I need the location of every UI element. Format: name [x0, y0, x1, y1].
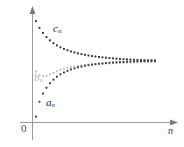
data-point — [105, 62, 107, 64]
data-point — [123, 58, 125, 60]
data-point — [77, 52, 79, 54]
data-point — [53, 79, 55, 81]
data-point — [67, 70, 69, 72]
data-point — [91, 55, 93, 57]
data-point — [63, 72, 65, 74]
data-point — [123, 61, 125, 63]
data-point — [112, 57, 114, 59]
data-point — [74, 67, 76, 69]
data-point — [137, 60, 139, 62]
data-point — [95, 63, 97, 65]
data-point — [133, 60, 135, 62]
sequence-convergence-figure: cn bn an 0 n — [0, 0, 184, 147]
data-point — [102, 62, 104, 64]
data-point — [49, 74, 51, 76]
data-point — [109, 62, 111, 64]
data-point — [112, 62, 114, 64]
data-point — [74, 66, 76, 68]
y-axis-arrow-icon — [30, 6, 36, 14]
data-point — [140, 60, 142, 62]
data-point — [105, 57, 107, 59]
data-point — [116, 61, 118, 63]
data-point — [35, 116, 37, 118]
data-point — [74, 52, 76, 54]
data-point — [95, 56, 97, 58]
data-point — [98, 63, 100, 65]
data-point — [154, 60, 156, 62]
data-point — [109, 57, 111, 59]
data-point — [98, 56, 100, 58]
series-label-c: cn — [53, 23, 61, 35]
data-point — [42, 32, 44, 34]
data-point — [119, 61, 121, 63]
data-point — [151, 60, 153, 62]
data-point — [102, 56, 104, 58]
data-point — [116, 58, 118, 60]
data-point — [67, 67, 69, 69]
x-axis-label: n — [168, 126, 173, 136]
data-point — [88, 64, 90, 66]
data-point — [126, 58, 128, 60]
data-point — [60, 69, 62, 71]
origin-label: 0 — [21, 123, 27, 134]
series-label-a: an — [46, 97, 55, 109]
data-point — [53, 42, 55, 44]
data-point — [53, 72, 55, 74]
data-point — [88, 55, 90, 57]
data-point — [60, 73, 62, 75]
data-point — [84, 65, 86, 67]
data-point — [46, 87, 48, 89]
data-point — [49, 82, 51, 84]
data-point — [130, 61, 132, 63]
data-point — [63, 48, 65, 50]
data-point — [42, 93, 44, 95]
data-point — [147, 60, 149, 62]
plot-canvas — [0, 0, 184, 147]
data-point — [35, 20, 37, 22]
data-point — [91, 64, 93, 66]
data-point — [63, 68, 65, 70]
data-point — [56, 44, 58, 46]
data-point — [39, 27, 41, 29]
data-point — [60, 46, 62, 48]
data-point — [49, 39, 51, 41]
data-point — [84, 54, 86, 56]
data-point — [70, 66, 72, 68]
data-point — [81, 66, 83, 68]
data-point — [70, 69, 72, 71]
data-point — [56, 76, 58, 78]
data-point — [56, 70, 58, 72]
data-point — [39, 101, 41, 103]
data-point — [133, 59, 135, 61]
data-point — [46, 75, 48, 77]
data-point — [130, 59, 132, 61]
series-label-b: bn — [34, 72, 43, 84]
data-point — [144, 60, 146, 62]
data-point — [126, 61, 128, 63]
data-point — [77, 66, 79, 68]
x-axis — [20, 120, 178, 126]
data-point — [46, 36, 48, 38]
data-point — [81, 53, 83, 55]
data-point — [70, 50, 72, 52]
data-point — [119, 58, 121, 60]
data-point — [67, 49, 69, 51]
